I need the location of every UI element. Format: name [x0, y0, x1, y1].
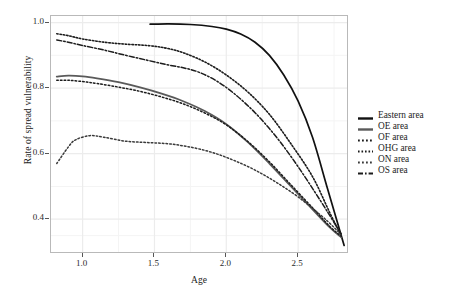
x-tick-mark — [297, 253, 298, 257]
x-tick-label: 2.0 — [205, 258, 245, 268]
gridlines — [51, 16, 347, 252]
legend-item: Eastern area — [357, 110, 449, 121]
legend-key-icon — [357, 154, 374, 165]
plot-panel — [50, 15, 348, 253]
x-tick-label: 2.5 — [277, 258, 317, 268]
x-tick-mark — [82, 253, 83, 257]
plot-lines — [51, 16, 347, 252]
y-tick-label: 0.6 — [20, 148, 44, 157]
x-tick-label: 1.0 — [62, 258, 102, 268]
legend-item: ON area — [357, 154, 449, 165]
legend-key-icon — [357, 110, 374, 121]
x-axis-title: Age — [50, 275, 348, 285]
y-tick-mark — [45, 87, 49, 88]
legend-key-icon — [357, 143, 374, 154]
legend-item: OHG area — [357, 143, 449, 154]
x-tick-mark — [225, 253, 226, 257]
legend-item: OF area — [357, 132, 449, 143]
legend-item-label: OHG area — [378, 143, 416, 154]
chart-legend: Eastern areaOE areaOF areaOHG areaON are… — [357, 110, 449, 176]
y-tick-label: 0.4 — [20, 213, 44, 222]
y-tick-label: 0.8 — [20, 82, 44, 91]
x-tick-mark — [153, 253, 154, 257]
legend-item-label: ON area — [378, 154, 409, 165]
legend-item-label: Eastern area — [378, 110, 424, 121]
legend-item: OE area — [357, 121, 449, 132]
y-tick-mark — [45, 218, 49, 219]
legend-item-label: OS area — [378, 165, 408, 176]
x-tick-label: 1.5 — [133, 258, 173, 268]
chart-figure: Rate of spread vulnerability 1.00.80.60.… — [0, 0, 451, 298]
y-tick-label: 1.0 — [20, 17, 44, 26]
legend-key-icon — [357, 132, 374, 143]
y-tick-mark — [45, 153, 49, 154]
legend-item-label: OF area — [378, 132, 408, 143]
legend-item-label: OE area — [378, 121, 408, 132]
legend-item: OS area — [357, 165, 449, 176]
y-axis-tick-labels: 1.00.80.60.4 — [12, 0, 44, 253]
legend-key-icon — [357, 121, 374, 132]
legend-key-icon — [357, 165, 374, 176]
y-tick-mark — [45, 22, 49, 23]
